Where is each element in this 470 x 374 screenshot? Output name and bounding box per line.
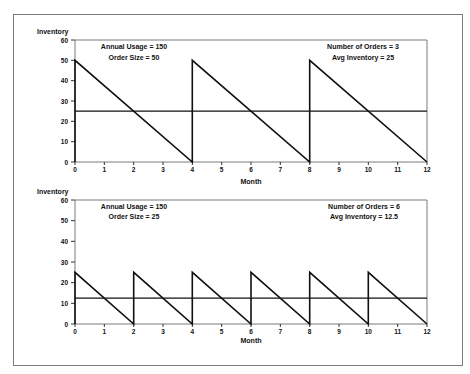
y-tick-label: 0 <box>64 159 68 166</box>
x-tick-label: 1 <box>103 328 107 335</box>
bottom-annotation-order-size: Order Size = 25 <box>109 213 160 220</box>
top-annotation-annual-usage: Annual Usage = 150 <box>101 43 167 51</box>
y-tick-label: 60 <box>61 197 69 204</box>
top-annotation-number-orders: Number of Orders = 3 <box>327 43 399 50</box>
x-tick-label: 11 <box>394 166 401 173</box>
chart-canvas: 01020304050600123456789101112 0102030405… <box>0 0 470 374</box>
x-tick-label: 2 <box>132 328 136 335</box>
x-tick-label: 5 <box>220 328 224 335</box>
x-tick-label: 9 <box>337 328 341 335</box>
y-tick-label: 50 <box>61 57 69 64</box>
y-tick-label: 60 <box>61 37 69 44</box>
y-tick-label: 20 <box>61 118 69 125</box>
y-tick-label: 40 <box>61 77 69 84</box>
x-tick-label: 8 <box>308 166 312 173</box>
y-tick-label: 20 <box>61 279 69 286</box>
x-tick-label: 0 <box>73 166 77 173</box>
x-tick-label: 0 <box>73 328 77 335</box>
x-tick-label: 2 <box>132 166 136 173</box>
x-tick-label: 9 <box>337 166 341 173</box>
x-tick-label: 3 <box>161 328 165 335</box>
bottom-y-axis-label: Inventory <box>37 188 69 196</box>
y-tick-label: 10 <box>61 300 69 307</box>
x-tick-label: 12 <box>423 328 431 335</box>
x-tick-label: 7 <box>279 166 283 173</box>
bottom-annotation-number-orders: Number of Orders = 6 <box>328 203 400 210</box>
x-tick-label: 7 <box>279 328 283 335</box>
y-tick-label: 30 <box>61 98 69 105</box>
bottom-annotation-annual-usage: Annual Usage = 150 <box>101 203 167 211</box>
x-tick-label: 4 <box>191 166 195 173</box>
y-tick-label: 30 <box>61 259 69 266</box>
x-tick-label: 4 <box>191 328 195 335</box>
x-tick-label: 8 <box>308 328 312 335</box>
x-tick-label: 3 <box>161 166 165 173</box>
y-tick-label: 50 <box>61 217 69 224</box>
x-tick-label: 12 <box>423 166 431 173</box>
y-tick-label: 10 <box>61 138 69 145</box>
x-tick-label: 10 <box>365 166 373 173</box>
top-x-axis-label: Month <box>241 178 262 185</box>
bottom-x-axis-label: Month <box>241 337 262 344</box>
x-tick-label: 11 <box>394 328 401 335</box>
x-tick-label: 5 <box>220 166 224 173</box>
x-tick-label: 1 <box>103 166 107 173</box>
x-tick-label: 6 <box>249 328 253 335</box>
bottom-annotation-avg-inventory: Avg Inventory = 12.5 <box>330 213 398 221</box>
y-tick-label: 0 <box>64 321 68 328</box>
top-annotation-avg-inventory: Avg Inventory = 25 <box>332 54 394 62</box>
top-annotation-order-size: Order Size = 50 <box>109 54 160 61</box>
x-tick-label: 6 <box>249 166 253 173</box>
x-tick-label: 10 <box>365 328 373 335</box>
y-tick-label: 40 <box>61 238 69 245</box>
top-y-axis-label: Inventory <box>37 28 69 36</box>
